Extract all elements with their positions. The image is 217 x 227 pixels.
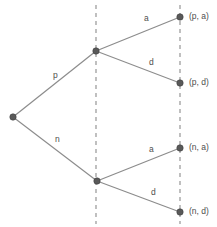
tree-edge-e-n [13, 117, 97, 181]
tree-edge-e-ld [97, 181, 180, 212]
upper-decision-node [93, 48, 99, 54]
game-tree-diagram: pnadad(p, a)(p, d)(n, a)(n, d) [0, 0, 217, 227]
tree-edge-e-ud [96, 51, 180, 83]
tree-canvas [0, 0, 217, 227]
terminal-node-pd [177, 80, 183, 86]
terminal-node-na [177, 145, 183, 151]
terminal-node-nd [177, 209, 183, 215]
lower-decision-node [94, 178, 100, 184]
information-set-layer [96, 5, 180, 224]
tree-edge-e-ua [96, 17, 180, 51]
root-node [10, 114, 16, 120]
tree-edge-e-p [13, 51, 96, 117]
terminal-node-pa [177, 14, 183, 20]
tree-edge-e-la [97, 148, 180, 181]
